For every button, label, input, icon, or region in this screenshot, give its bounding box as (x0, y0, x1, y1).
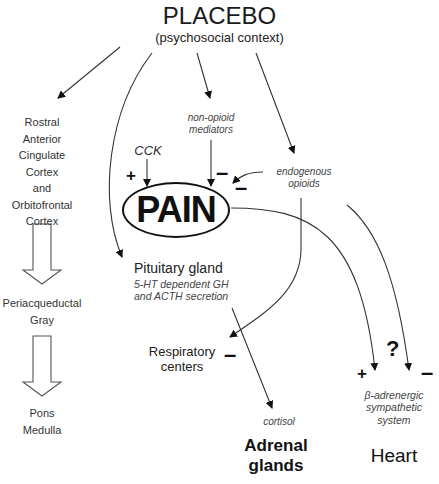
heart-question-mark: ? (386, 336, 399, 362)
cortex-line: and (0, 180, 84, 197)
block-arrow-pag-to-pons (23, 336, 61, 396)
label-cck: CCK (128, 143, 168, 158)
label-pag: Periacqueductal Gray (0, 295, 84, 328)
opioids-line: endogenous (264, 166, 344, 178)
pons-line: Medulla (0, 422, 84, 439)
arrow-opioids-to-respiratory (230, 198, 301, 337)
pag-line: Gray (0, 312, 84, 329)
sign-heart-plus: + (357, 364, 367, 384)
label-cortisol: cortisol (254, 416, 304, 428)
arrow-placebo-to-opioids (256, 53, 294, 153)
sign-non-opioid-minus: – (216, 160, 228, 186)
sign-opioids-minus: – (235, 175, 247, 201)
respiratory-line: centers (140, 359, 224, 374)
beta-line: sympathetic (354, 401, 434, 413)
arrow-placebo-to-cortex (58, 47, 120, 98)
sign-respiratory-minus: – (224, 342, 236, 368)
pag-line: Periacqueductal (0, 295, 84, 312)
arrow-pituitary-to-adrenal (232, 308, 272, 408)
block-arrow-cortex-to-pag (23, 224, 61, 284)
non-opioid-line: non-opioid (180, 112, 242, 124)
label-non-opioid: non-opioid mediators (180, 112, 242, 136)
cortex-line: Cortex (0, 164, 84, 181)
arrow-placebo-to-nonopioid (197, 53, 210, 98)
label-endogenous-opioids: endogenous opioids (264, 166, 344, 190)
adrenal-line: Adrenal (236, 436, 316, 456)
cortex-line: Rostral (0, 114, 84, 131)
label-cortex: Rostral Anterior Cingulate Cortex and Or… (0, 114, 84, 230)
pituitary-detail-line: 5-HT dependent GH (134, 278, 229, 290)
cortex-line: Orbitofrontal (0, 197, 84, 214)
cortex-line: Cortex (0, 213, 84, 230)
sign-heart-minus: – (421, 360, 433, 386)
beta-line: β-adrenergic (354, 389, 434, 401)
label-pons-medulla: Pons Medulla (0, 405, 84, 438)
adrenal-line: glands (236, 456, 316, 476)
label-pain: PAIN (136, 189, 215, 231)
opioids-line: opioids (264, 178, 344, 190)
label-respiratory: Respiratory centers (140, 344, 224, 375)
label-heart: Heart (354, 445, 434, 467)
pain-ellipse: PAIN (122, 182, 230, 238)
non-opioid-line: mediators (180, 124, 242, 136)
cortex-line: Cingulate (0, 147, 84, 164)
arrow-opioids-to-heart (347, 205, 409, 370)
pituitary-detail-line: and ACTH secretion (134, 290, 229, 302)
label-beta-adrenergic: β-adrenergic sympathetic system (354, 389, 434, 426)
title-placebo: PLACEBO (0, 2, 439, 30)
beta-line: system (354, 414, 434, 426)
arrow-pain-to-heart (231, 208, 375, 370)
subtitle-context: (psychosocial context) (0, 30, 439, 45)
sign-cck-plus: + (126, 166, 136, 186)
pons-line: Pons (0, 405, 84, 422)
label-adrenal-glands: Adrenal glands (236, 436, 316, 476)
cortex-line: Anterior (0, 131, 84, 148)
label-pituitary-detail: 5-HT dependent GH and ACTH secretion (134, 278, 229, 303)
respiratory-line: Respiratory (140, 344, 224, 359)
label-pituitary: Pituitary gland (134, 260, 223, 277)
